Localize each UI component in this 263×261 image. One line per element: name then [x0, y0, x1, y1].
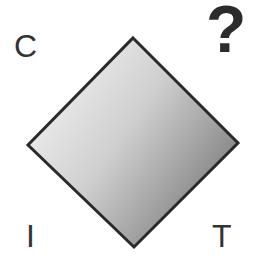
- figure-canvas: C I T ?: [0, 0, 263, 261]
- diamond-polygon: [28, 38, 238, 247]
- corner-label-bottom-right: T: [212, 220, 232, 252]
- corner-label-bottom-left: I: [26, 220, 35, 252]
- question-mark-icon: ?: [206, 0, 246, 62]
- corner-label-top-left: C: [14, 30, 37, 62]
